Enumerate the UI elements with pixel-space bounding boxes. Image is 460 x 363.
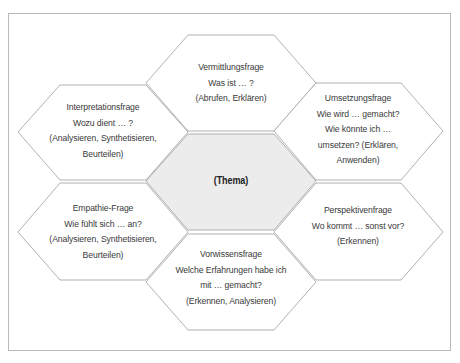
hex-top-skills: (Abrufen, Erklären): [164, 90, 299, 106]
hex-upper-left-title: Interpretationsfrage: [36, 99, 171, 115]
hex-upper-right-question-2: Wie könnte ich …: [291, 121, 426, 137]
hex-lower-right-question: Wo kommt … sonst vor?: [291, 218, 426, 234]
hex-upper-right-title: Umsetzungsfrage: [291, 90, 426, 106]
hex-upper-left-label: Interpretationsfrage Wozu dient … ? (Ana…: [36, 99, 171, 161]
hex-lower-left-title: Empathie-Frage: [36, 200, 171, 216]
hex-upper-right-question-1: Wie wird … gemacht?: [291, 106, 426, 122]
hex-upper-left-question: Wozu dient … ?: [36, 115, 171, 131]
hex-bottom-question-1: Welche Erfahrungen habe ich: [164, 262, 299, 278]
hex-lower-right-label: Perspektivenfrage Wo kommt … sonst vor? …: [291, 202, 426, 249]
hex-upper-right-label: Umsetzungsfrage Wie wird … gemacht? Wie …: [291, 90, 426, 168]
hex-lower-left-skills-2: Beurteilen): [36, 247, 171, 263]
hex-upper-right-question-3: umsetzen? (Erklären,: [291, 137, 426, 153]
center-topic: (Thema): [164, 173, 299, 189]
hex-bottom-question-2: mit … gemacht?: [164, 277, 299, 293]
hex-top-label: Vermittlungsfrage Was ist … ? (Abrufen, …: [164, 59, 299, 106]
hex-upper-right-skills: Anwenden): [291, 152, 426, 168]
hex-top-title: Vermittlungsfrage: [164, 59, 299, 75]
hex-lower-left-label: Empathie-Frage Wie fühlt sich … an? (Ana…: [36, 200, 171, 262]
hex-bottom-title: Vorwissensfrage: [164, 246, 299, 262]
hex-bottom-label: Vorwissensfrage Welche Erfahrungen habe …: [164, 246, 299, 308]
hex-lower-left-skills-1: (Analysieren, Synthetisieren,: [36, 231, 171, 247]
hex-lower-right-skills: (Erkennen): [291, 233, 426, 249]
hex-center-label: (Thema): [164, 173, 299, 189]
hex-upper-left-skills-1: (Analysieren, Synthetisieren,: [36, 130, 171, 146]
hex-top-question: Was ist … ?: [164, 75, 299, 91]
hex-upper-left-skills-2: Beurteilen): [36, 146, 171, 162]
hex-bottom-skills: (Erkennen, Analysieren): [164, 293, 299, 309]
hex-lower-right-title: Perspektivenfrage: [291, 202, 426, 218]
hex-lower-left-question: Wie fühlt sich … an?: [36, 216, 171, 232]
